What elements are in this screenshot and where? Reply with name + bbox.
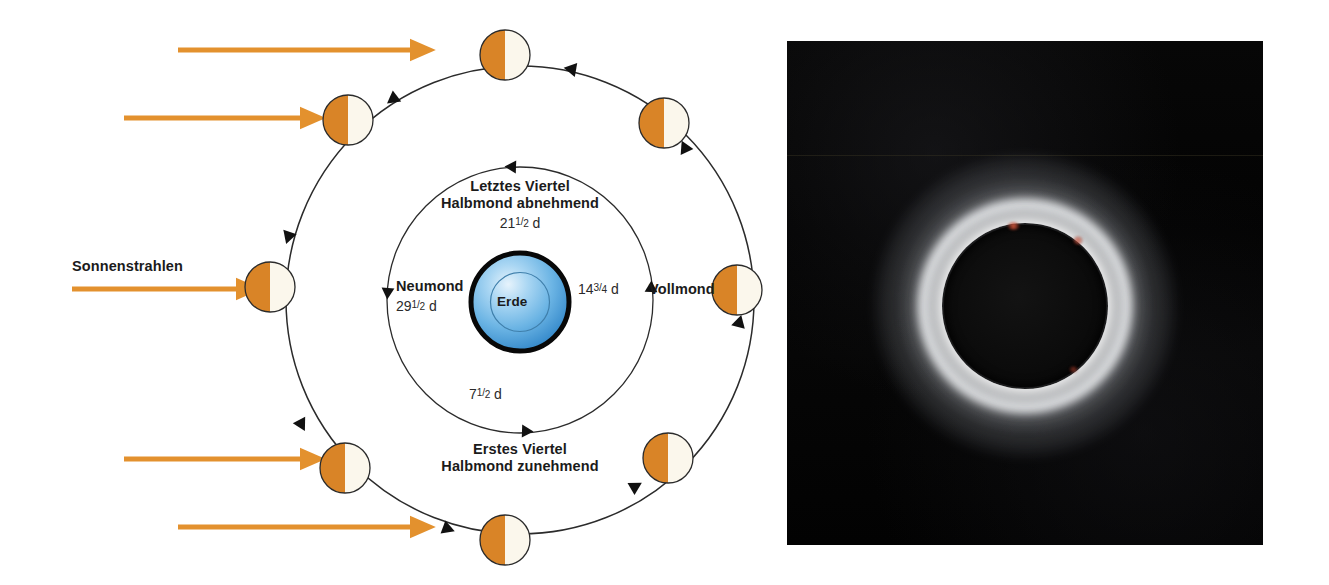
- prominence-lower-right-icon: [1069, 366, 1078, 373]
- sonnenstrahlen-label: Sonnenstrahlen: [72, 258, 183, 275]
- first-quarter-label-block: Erstes Viertel Halbmond zunehmend: [370, 441, 670, 475]
- full-moon-name: Vollmond: [649, 281, 715, 298]
- full-moon-days-unit: d: [611, 281, 619, 297]
- orbit-arrow-upper-left: [383, 90, 401, 109]
- full-moon-days-num: 3: [594, 282, 599, 293]
- moon-upper-right: [639, 98, 689, 148]
- eclipsed-sun-disc: [944, 225, 1106, 387]
- new-moon-days-unit: d: [429, 298, 437, 314]
- first-quarter-line2: Halbmond zunehmend: [370, 458, 670, 475]
- moon-bottom: [480, 515, 530, 565]
- first-quarter-days-whole: 7: [469, 386, 477, 402]
- last-quarter-line1: Letztes Viertel: [370, 178, 670, 195]
- new-moon-name: Neumond: [396, 278, 464, 295]
- full-moon-days-den: 4: [602, 284, 607, 295]
- new-moon-label-block: Neumond 291/2 d: [396, 278, 464, 315]
- full-moon-days-whole: 14: [578, 281, 594, 297]
- orbit-arrow-lower-left: [293, 417, 311, 435]
- inner-arrow-bottom: [522, 425, 534, 438]
- inner-arrow-top: [504, 160, 516, 173]
- prominence-top-icon: [1007, 222, 1020, 230]
- moon-upper-left: [323, 95, 373, 145]
- orbit-arrow-lower-right: [628, 477, 646, 495]
- last-quarter-line2: Halbmond abnehmend: [370, 195, 670, 212]
- full-moon-days: 143/4 d: [578, 281, 619, 298]
- new-moon-days-den: 2: [420, 301, 425, 312]
- moon-top: [480, 30, 530, 80]
- last-quarter-days-den: 2: [523, 218, 528, 229]
- new-moon-days-whole: 29: [396, 298, 412, 314]
- first-quarter-line1: Erstes Viertel: [370, 441, 670, 458]
- last-quarter-days: 211/2 d: [370, 215, 670, 232]
- new-moon-days-num: 1: [412, 299, 417, 310]
- first-quarter-days: 71/2 d: [469, 386, 502, 403]
- new-moon-days: 291/2 d: [396, 298, 464, 315]
- inner-arrow-left: [381, 288, 395, 300]
- last-quarter-days-unit: d: [533, 215, 541, 231]
- last-quarter-days-num: 1: [515, 216, 520, 227]
- first-quarter-days-num: 1: [477, 387, 482, 398]
- solar-eclipse-photo: [787, 41, 1263, 545]
- orbit-arrow-top: [562, 61, 577, 77]
- earth-label: Erde: [497, 294, 527, 310]
- moon-left: [245, 262, 295, 312]
- figure-canvas: Sonnenstrahlen Erde Letztes Viertel Halb…: [0, 0, 1329, 585]
- prominence-upper-right-icon: [1073, 236, 1083, 245]
- last-quarter-label-block: Letztes Viertel Halbmond abnehmend 211/2…: [370, 178, 670, 232]
- moon-right: [712, 265, 762, 315]
- first-quarter-days-unit: d: [494, 386, 502, 402]
- last-quarter-days-whole: 21: [500, 215, 516, 231]
- moon-lower-left: [320, 443, 370, 493]
- first-quarter-days-den: 2: [485, 389, 490, 400]
